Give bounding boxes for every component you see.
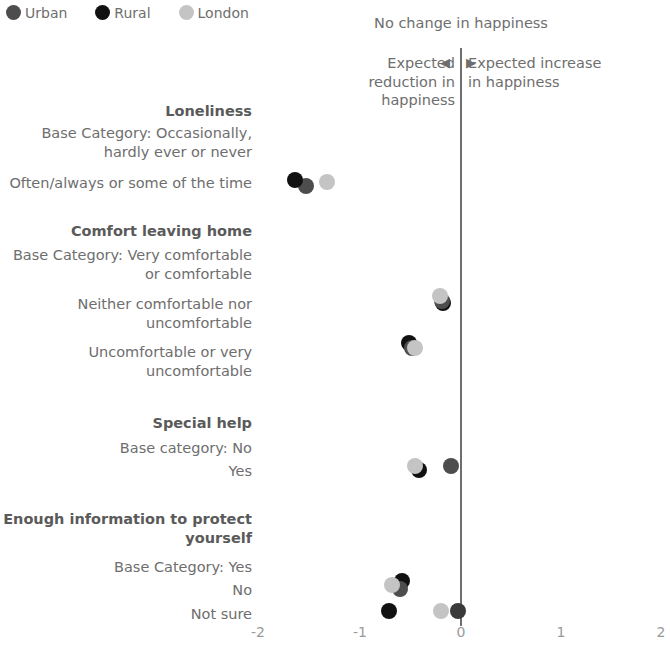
x-tick-one: 1 [557,624,566,640]
point-rural-loneliness[interactable] [287,172,303,188]
annotation-expected-reduction: Expected reduction in happiness [315,54,455,110]
legend-label-rural: Rural [114,6,150,20]
coefficient-plot: Urban Rural London No change in happines… [0,0,670,654]
legend-swatch-london [179,5,194,20]
x-tick-minus1: -1 [353,624,367,640]
x-tick-minus2: -2 [251,624,265,640]
annotation-no-change: No change in happiness [366,14,556,33]
legend: Urban Rural London [6,5,277,20]
group-label-comfort-leaving-home: Comfort leaving home [0,222,252,241]
group-label-special-help: Special help [0,414,252,433]
row-label-no: No [0,581,252,600]
point-urban-special-help[interactable] [443,458,459,474]
legend-item-london[interactable]: London [179,5,249,20]
base-label-enough-information: Base Category: Yes [0,558,252,577]
annotation-expected-increase: Expected increase in happiness [468,54,613,91]
annotation-increase-text: Expected increase in happiness [468,55,601,90]
point-rural-info-not-sure[interactable] [381,603,397,619]
row-label-yes: Yes [0,462,252,481]
row-label-uncomfortable: Uncomfortable or very uncomfortable [0,343,252,380]
zero-reference-line [460,48,462,626]
row-label-not-sure: Not sure [0,605,252,624]
point-london-info-no[interactable] [384,577,400,593]
point-london-neither-comfortable[interactable] [432,288,448,304]
row-label-often-always: Often/always or some of the time [0,174,252,193]
base-label-special-help: Base category: No [0,439,252,458]
legend-swatch-rural [95,5,110,20]
x-tick-two: 2 [657,624,666,640]
group-label-enough-information: Enough information to protect yourself [0,510,252,547]
legend-label-london: London [198,6,249,20]
base-label-loneliness: Base Category: Occasionally, hardly ever… [0,124,252,161]
base-label-comfort: Base Category: Very comfortable or comfo… [0,246,252,283]
legend-swatch-urban [6,5,21,20]
right-arrow-icon: ▶ [466,56,476,69]
point-london-uncomfortable[interactable] [407,340,423,356]
legend-item-urban[interactable]: Urban [6,5,67,20]
legend-item-rural[interactable]: Rural [95,5,150,20]
group-label-loneliness: Loneliness [0,102,252,121]
point-london-loneliness[interactable] [319,174,335,190]
point-london-info-not-sure[interactable] [433,603,449,619]
legend-label-urban: Urban [25,6,67,20]
point-london-special-help[interactable] [407,458,423,474]
row-label-neither-comfortable: Neither comfortable nor uncomfortable [0,295,252,332]
left-arrow-icon: ◀ [440,56,450,69]
x-tick-zero: 0 [457,624,466,640]
point-urban-info-not-sure[interactable] [450,603,466,619]
